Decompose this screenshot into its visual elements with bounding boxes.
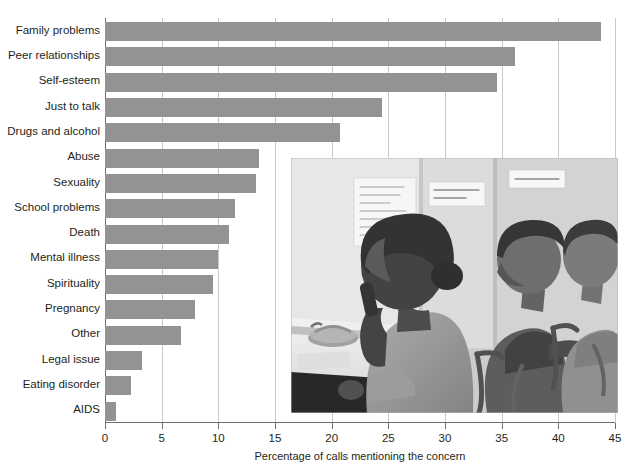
bar-mental-illness[interactable] bbox=[105, 250, 218, 269]
category-label-drugs-and-alcohol: Drugs and alcohol bbox=[0, 125, 100, 138]
category-label-abuse: Abuse bbox=[0, 150, 100, 163]
tick-mark-10 bbox=[218, 423, 219, 429]
bar-other[interactable] bbox=[105, 326, 181, 345]
category-label-aids: AIDS bbox=[0, 403, 100, 416]
x-axis-line bbox=[105, 422, 615, 423]
bar-self-esteem[interactable] bbox=[105, 73, 497, 92]
category-label-family-problems: Family problems bbox=[0, 24, 100, 37]
bar-spirituality[interactable] bbox=[105, 275, 213, 294]
category-label-legal-issue: Legal issue bbox=[0, 353, 100, 366]
tick-mark-15 bbox=[275, 423, 276, 429]
category-label-spirituality: Spirituality bbox=[0, 277, 100, 290]
bar-eating-disorder[interactable] bbox=[105, 376, 131, 395]
category-label-eating-disorder: Eating disorder bbox=[0, 378, 100, 391]
tick-label-0: 0 bbox=[90, 431, 120, 445]
tick-label-10: 10 bbox=[203, 431, 233, 445]
bar-peer-relationships[interactable] bbox=[105, 47, 515, 66]
tick-label-45: 45 bbox=[600, 431, 630, 445]
tick-label-25: 25 bbox=[373, 431, 403, 445]
bar-pregnancy[interactable] bbox=[105, 300, 195, 319]
category-label-self-esteem: Self-esteem bbox=[0, 74, 100, 87]
tick-mark-30 bbox=[445, 423, 446, 429]
category-label-other: Other bbox=[0, 327, 100, 340]
bar-aids[interactable] bbox=[105, 402, 116, 421]
bar-family-problems[interactable] bbox=[105, 22, 601, 41]
tick-label-15: 15 bbox=[260, 431, 290, 445]
bar-death[interactable] bbox=[105, 225, 229, 244]
bar-school-problems[interactable] bbox=[105, 199, 235, 218]
tick-label-40: 40 bbox=[543, 431, 573, 445]
tick-mark-0 bbox=[105, 423, 106, 429]
category-label-peer-relationships: Peer relationships bbox=[0, 49, 100, 62]
photograph-artwork bbox=[291, 158, 618, 413]
category-label-sexuality: Sexuality bbox=[0, 176, 100, 189]
bar-sexuality[interactable] bbox=[105, 174, 256, 193]
category-label-death: Death bbox=[0, 226, 100, 239]
bar-abuse[interactable] bbox=[105, 149, 259, 168]
category-axis-labels: Family problemsPeer relationshipsSelf-es… bbox=[0, 18, 100, 423]
tick-label-35: 35 bbox=[487, 431, 517, 445]
bar-drugs-and-alcohol[interactable] bbox=[105, 123, 340, 142]
tick-label-20: 20 bbox=[317, 431, 347, 445]
tick-mark-5 bbox=[162, 423, 163, 429]
bar-chart-figure: Family problemsPeer relationshipsSelf-es… bbox=[0, 0, 635, 470]
category-label-school-problems: School problems bbox=[0, 201, 100, 214]
tick-mark-35 bbox=[502, 423, 503, 429]
tick-mark-25 bbox=[388, 423, 389, 429]
category-label-pregnancy: Pregnancy bbox=[0, 302, 100, 315]
tick-label-5: 5 bbox=[147, 431, 177, 445]
tick-label-30: 30 bbox=[430, 431, 460, 445]
crisis-hotline-photograph bbox=[291, 158, 618, 413]
bar-just-to-talk[interactable] bbox=[105, 98, 382, 117]
tick-mark-45 bbox=[615, 423, 616, 429]
tick-mark-20 bbox=[332, 423, 333, 429]
category-label-mental-illness: Mental illness bbox=[0, 251, 100, 264]
x-axis-title: Percentage of calls mentioning the conce… bbox=[105, 450, 615, 462]
tick-mark-40 bbox=[558, 423, 559, 429]
category-label-just-to-talk: Just to talk bbox=[0, 100, 100, 113]
bar-legal-issue[interactable] bbox=[105, 351, 142, 370]
